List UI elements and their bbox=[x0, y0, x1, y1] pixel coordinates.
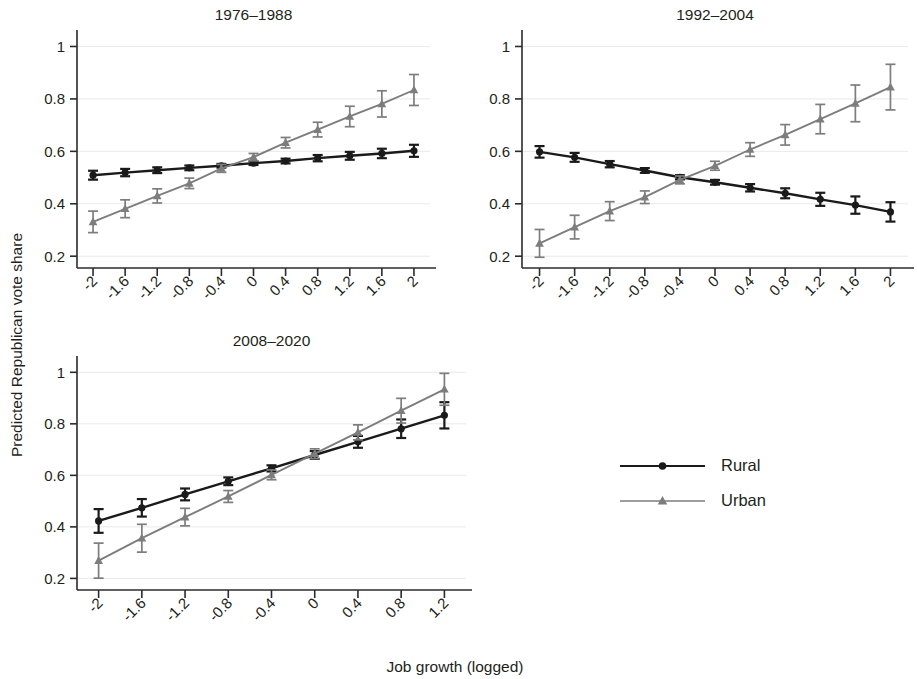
data-point-marker bbox=[817, 196, 824, 203]
y-tick-label: 0.4 bbox=[44, 518, 65, 535]
data-point-marker bbox=[852, 201, 859, 208]
data-point-marker bbox=[181, 491, 188, 498]
y-tick-label: 0.8 bbox=[489, 90, 510, 107]
y-tick-label: 0.8 bbox=[44, 90, 65, 107]
data-point-marker bbox=[154, 167, 161, 174]
y-tick-label: 0.6 bbox=[489, 143, 510, 160]
y-tick-label: 1 bbox=[57, 364, 65, 381]
panel-title: 1992–2004 bbox=[676, 6, 754, 23]
y-tick-label: 0.2 bbox=[44, 570, 65, 587]
data-point-marker bbox=[641, 167, 648, 174]
data-point-marker bbox=[346, 152, 353, 159]
legend-circle-marker-icon bbox=[659, 462, 667, 470]
data-point-marker bbox=[410, 147, 417, 154]
data-point-marker bbox=[89, 172, 96, 179]
figure-container: Predicted Republican vote share Job grow… bbox=[0, 0, 917, 679]
data-point-marker bbox=[138, 504, 145, 511]
data-point-marker bbox=[378, 150, 385, 157]
x-axis-title: Job growth (logged) bbox=[387, 658, 524, 675]
data-point-marker bbox=[441, 412, 448, 419]
chart-background bbox=[0, 0, 917, 679]
data-point-marker bbox=[536, 148, 543, 155]
y-axis-title: Predicted Republican vote share bbox=[8, 233, 25, 457]
data-point-marker bbox=[225, 478, 232, 485]
y-tick-label: 0.2 bbox=[44, 248, 65, 265]
legend-label: Rural bbox=[721, 456, 760, 474]
y-tick-label: 0.2 bbox=[489, 248, 510, 265]
y-tick-label: 0.4 bbox=[489, 195, 510, 212]
data-point-marker bbox=[606, 161, 613, 168]
data-point-marker bbox=[746, 184, 753, 191]
data-point-marker bbox=[186, 164, 193, 171]
y-tick-label: 0.6 bbox=[44, 467, 65, 484]
panel-title: 2008–2020 bbox=[233, 332, 311, 349]
y-tick-label: 1 bbox=[502, 38, 510, 55]
multi-panel-line-chart: Predicted Republican vote share Job grow… bbox=[0, 0, 917, 679]
y-tick-label: 0.4 bbox=[44, 195, 65, 212]
legend-label: Urban bbox=[721, 491, 766, 509]
data-point-marker bbox=[571, 154, 578, 161]
data-point-marker bbox=[782, 190, 789, 197]
panel-title: 1976–1988 bbox=[215, 6, 293, 23]
y-tick-label: 1 bbox=[57, 38, 65, 55]
data-point-marker bbox=[711, 179, 718, 186]
y-tick-label: 0.8 bbox=[44, 415, 65, 432]
data-point-marker bbox=[398, 425, 405, 432]
data-point-marker bbox=[314, 155, 321, 162]
data-point-marker bbox=[95, 517, 102, 524]
y-tick-label: 0.6 bbox=[44, 143, 65, 160]
data-point-marker bbox=[122, 169, 129, 176]
data-point-marker bbox=[887, 208, 894, 215]
data-point-marker bbox=[282, 157, 289, 164]
